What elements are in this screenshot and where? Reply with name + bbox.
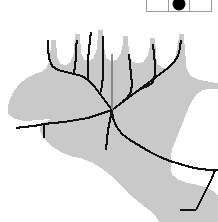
legend-strip[interactable]: [146, 0, 212, 12]
filled-circle-icon: [173, 0, 186, 11]
legend-cell-center[interactable]: [169, 0, 191, 11]
legend-cell-left[interactable]: [147, 0, 169, 11]
moose-skeleton-figure: [0, 0, 218, 222]
legend-cell-right[interactable]: [190, 0, 211, 11]
figure-root: [0, 0, 218, 222]
